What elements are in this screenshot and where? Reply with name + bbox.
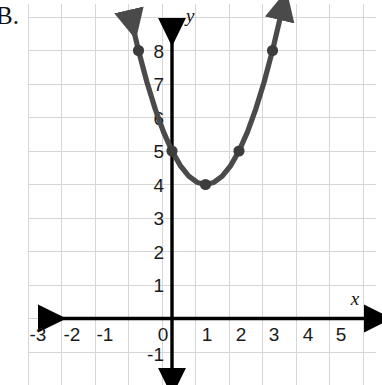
y-tick-label: 3 — [153, 208, 164, 229]
data-point — [267, 45, 278, 56]
x-tick-label: 4 — [303, 324, 314, 345]
x-tick-label: -2 — [64, 324, 81, 345]
x-tick-label-origin: 0 — [158, 324, 169, 345]
y-tick-label: 1 — [153, 275, 164, 296]
y-tick-label: 2 — [153, 242, 164, 263]
data-point — [166, 145, 177, 156]
x-tick-label: 3 — [269, 324, 280, 345]
x-tick-label: -1 — [97, 324, 114, 345]
x-axis-label: x — [350, 288, 360, 309]
data-point — [233, 145, 244, 156]
x-tick-label: -3 — [30, 324, 47, 345]
coordinate-plane: x y -3 -2 -1 0 1 2 3 4 5 -1 1 2 3 4 5 6 … — [0, 0, 382, 385]
x-tick-label: 2 — [236, 324, 247, 345]
y-tick-label: 8 — [153, 41, 164, 62]
x-tick-labels: -3 -2 -1 0 1 2 3 4 5 — [30, 324, 347, 345]
x-tick-label: 1 — [202, 324, 213, 345]
y-tick-label: 4 — [153, 175, 164, 196]
y-tick-label: -1 — [147, 344, 164, 365]
y-axis-label: y — [184, 5, 195, 26]
x-tick-label: 5 — [336, 324, 347, 345]
y-tick-label: 5 — [153, 141, 164, 162]
graph-panel: B. — [0, 0, 382, 385]
axis-lines — [42, 22, 368, 372]
y-tick-label: 7 — [153, 74, 164, 95]
data-point — [200, 179, 211, 190]
data-point — [133, 45, 144, 56]
